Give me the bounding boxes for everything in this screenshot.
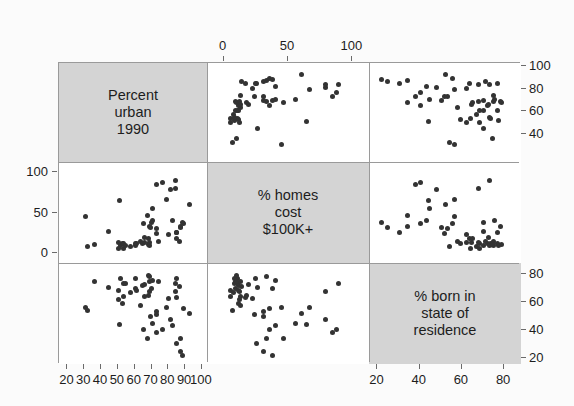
data-point	[154, 330, 159, 335]
data-point	[304, 119, 309, 124]
data-point	[486, 235, 491, 240]
data-point	[145, 213, 150, 218]
axis-tick	[167, 364, 168, 369]
axis-tick-label: 40	[529, 322, 543, 337]
data-point	[405, 224, 410, 229]
data-point	[236, 108, 241, 113]
data-point	[418, 103, 423, 108]
data-point	[261, 79, 266, 84]
data-point	[142, 282, 147, 287]
data-point	[426, 198, 431, 203]
data-point	[120, 301, 125, 306]
data-point	[123, 281, 128, 286]
scatter-panel-urban-vs-homes	[59, 162, 207, 263]
data-point	[160, 327, 165, 332]
axis-tick	[521, 88, 526, 89]
data-point	[490, 136, 495, 141]
scatter-panel-homes-vs-urban	[207, 63, 369, 162]
data-point	[498, 224, 503, 229]
data-point	[156, 279, 161, 284]
data-point	[458, 241, 463, 246]
data-point	[148, 225, 153, 230]
data-point	[405, 78, 410, 83]
data-point	[261, 349, 266, 354]
data-point	[450, 221, 455, 226]
data-point	[495, 108, 500, 113]
data-point	[279, 142, 284, 147]
data-point	[307, 305, 312, 310]
data-point	[323, 317, 328, 322]
axis-tick	[134, 364, 135, 369]
data-point	[445, 226, 450, 231]
data-point	[496, 118, 501, 123]
axis-tick	[521, 133, 526, 134]
axis-tick-label: 40	[411, 372, 425, 387]
data-point	[146, 293, 151, 298]
data-point	[439, 98, 444, 103]
data-point	[336, 281, 341, 286]
data-point	[270, 98, 275, 103]
data-point	[424, 218, 429, 223]
data-point	[134, 241, 139, 246]
data-point	[238, 93, 243, 98]
data-point	[250, 86, 255, 91]
data-point	[150, 206, 155, 211]
data-point	[164, 305, 169, 310]
data-point	[267, 103, 272, 108]
data-point	[439, 225, 444, 230]
data-point	[254, 341, 259, 346]
axis-tick	[117, 364, 118, 369]
data-point	[252, 312, 257, 317]
data-point	[121, 294, 126, 299]
data-point	[246, 282, 251, 287]
data-point	[426, 119, 431, 124]
data-point	[255, 285, 260, 290]
scatter-panel-born-vs-homes	[369, 162, 521, 263]
data-point	[150, 321, 155, 326]
data-point	[164, 197, 169, 202]
data-point	[424, 84, 429, 89]
data-point	[491, 93, 496, 98]
axis-tick-label: 20	[529, 350, 543, 365]
data-point	[336, 82, 341, 87]
axis-tick	[83, 364, 84, 369]
data-point	[92, 279, 97, 284]
axis-tick	[521, 357, 526, 358]
scatter-panel-homes-vs-born	[207, 263, 369, 364]
data-point	[83, 214, 88, 219]
data-point	[434, 187, 439, 192]
data-point	[178, 225, 183, 230]
axis-tick-label: 0	[219, 38, 226, 53]
data-point	[481, 229, 486, 234]
data-point	[141, 221, 146, 226]
diagonal-panel-homes: % homes cost $100K+	[207, 162, 369, 263]
panel-divider-vertical-1	[207, 63, 208, 362]
data-point	[418, 90, 423, 95]
data-point	[267, 306, 272, 311]
data-point	[495, 81, 500, 86]
data-point	[334, 327, 339, 332]
data-point	[238, 102, 243, 107]
axis-tick-label: 80	[529, 266, 543, 281]
data-point	[117, 198, 122, 203]
data-point	[476, 186, 481, 191]
data-point	[413, 94, 418, 99]
data-point	[468, 116, 473, 121]
data-point	[168, 317, 173, 322]
axis-tick-label: 40	[529, 125, 543, 140]
data-point	[470, 236, 475, 241]
data-point	[405, 213, 410, 218]
data-point	[261, 314, 266, 319]
data-point	[181, 306, 186, 311]
data-point	[133, 276, 138, 281]
axis-tick-label: 100	[26, 164, 48, 179]
data-point	[270, 77, 275, 82]
data-point	[293, 97, 298, 102]
diagonal-label-homes: % homes cost $100K+	[258, 187, 318, 238]
data-point	[174, 230, 179, 235]
data-point	[455, 105, 460, 110]
data-point	[237, 297, 242, 302]
data-point	[470, 100, 475, 105]
axis-tick-label: 100	[529, 58, 551, 73]
data-point	[450, 76, 455, 81]
